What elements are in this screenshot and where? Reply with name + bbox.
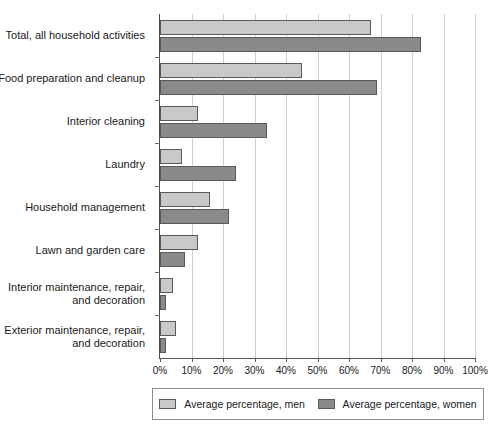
bar-women [160,338,166,353]
bar-women [160,80,377,95]
bar-women [160,252,185,267]
category-axis-tick [155,57,160,58]
gridline [349,14,350,358]
legend-label: Average percentage, women [343,398,477,410]
category-axis-tick [155,272,160,273]
category-label: Household management [0,201,145,214]
x-axis-tick-label: 100% [455,365,495,376]
bar-chart: Total, all household activitiesFood prep… [0,0,500,431]
bar-women [160,123,267,138]
x-axis-tick [286,358,287,362]
bar-women [160,37,421,52]
bar-men [160,235,198,250]
x-axis-tick [444,358,445,362]
bar-men [160,149,182,164]
bar-men [160,106,198,121]
gridline [444,14,445,358]
gridline [381,14,382,358]
bar-men [160,63,302,78]
category-axis-tick [155,143,160,144]
category-label: Laundry [0,158,145,171]
gridline [412,14,413,358]
category-axis-tick [155,186,160,187]
x-axis-tick [192,358,193,362]
legend-item-men[interactable]: Average percentage, men [159,398,305,410]
category-axis-tick [155,229,160,230]
x-axis-tick [412,358,413,362]
category-label: Lawn and garden care [0,244,145,257]
category-label: Food preparation and cleanup [0,72,145,85]
x-axis-tick [223,358,224,362]
x-axis-tick [318,358,319,362]
bar-men [160,20,371,35]
legend-item-women[interactable]: Average percentage, women [318,398,477,410]
category-axis-tick [155,100,160,101]
x-axis-tick [349,358,350,362]
category-label: Interior cleaning [0,115,145,128]
bar-women [160,295,166,310]
x-axis-tick [381,358,382,362]
bar-women [160,209,229,224]
legend-swatch-icon [318,399,335,409]
x-axis-tick [255,358,256,362]
bar-men [160,192,210,207]
category-axis-tick [155,315,160,316]
bar-men [160,278,173,293]
chart-legend: Average percentage, menAverage percentag… [152,388,484,420]
category-label: Exterior maintenance, repair, and decora… [0,324,145,349]
x-axis-tick [160,358,161,362]
x-axis-tick [475,358,476,362]
category-label: Interior maintenance, repair, and decora… [0,281,145,306]
category-label: Total, all household activities [0,29,145,42]
legend-swatch-icon [159,399,176,409]
gridline [475,14,476,358]
bar-women [160,166,236,181]
bar-men [160,321,176,336]
plot-area: 0%10%20%30%40%50%60%70%80%90%100% [160,14,475,358]
legend-label: Average percentage, men [184,398,305,410]
category-axis-labels: Total, all household activitiesFood prep… [0,14,155,358]
gridline [318,14,319,358]
